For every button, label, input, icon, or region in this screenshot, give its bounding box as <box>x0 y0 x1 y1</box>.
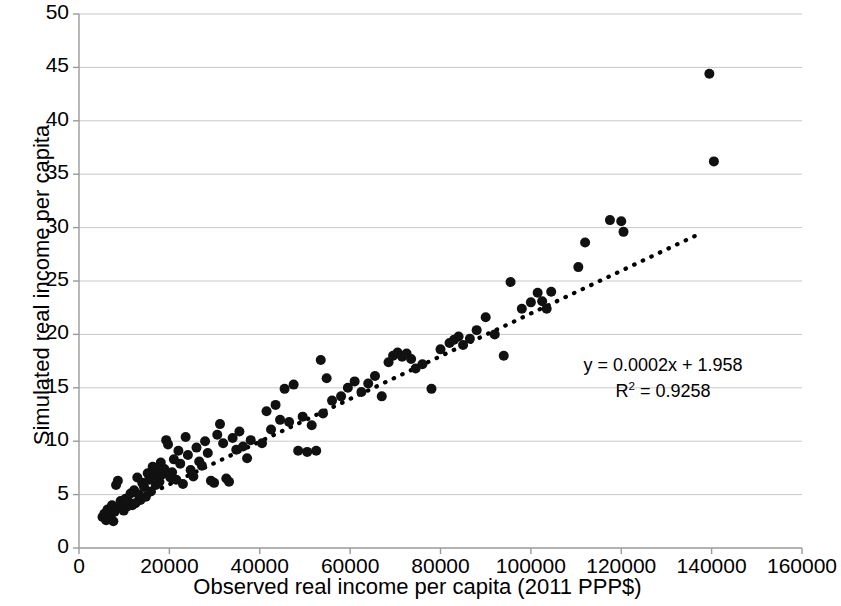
data-points <box>97 69 718 526</box>
scatter-point <box>175 459 185 469</box>
scatter-point <box>318 408 328 418</box>
x-axis-title: Observed real income per capita (2011 PP… <box>0 574 835 600</box>
scatter-point <box>490 329 500 339</box>
scatter-point <box>546 287 556 297</box>
scatter-point <box>377 391 387 401</box>
scatter-point <box>506 277 516 287</box>
scatter-point <box>181 432 191 442</box>
scatter-point <box>533 288 543 298</box>
scatter-point <box>454 332 464 342</box>
scatter-point <box>370 371 380 381</box>
scatter-point <box>481 312 491 322</box>
scatter-point <box>178 479 188 489</box>
scatter-point <box>580 238 590 248</box>
scatter-point <box>289 380 299 390</box>
scatter-point <box>499 351 509 361</box>
scatter-point <box>113 476 123 486</box>
scatter-point <box>293 446 303 456</box>
scatter-point <box>436 344 446 354</box>
scatter-point <box>203 448 213 458</box>
scatter-point <box>619 227 629 237</box>
scatter-point <box>709 156 719 166</box>
scatter-point <box>302 447 312 457</box>
scatter-point <box>262 406 272 416</box>
scatter-point <box>246 435 256 445</box>
scatter-point <box>275 415 285 425</box>
r-squared-label: R2 = 0.9258 <box>548 378 778 404</box>
scatter-point <box>417 359 427 369</box>
scatter-point <box>363 379 373 389</box>
scatter-point <box>209 478 219 488</box>
gridlines <box>79 14 802 495</box>
scatter-point <box>336 391 346 401</box>
scatter-point <box>271 400 281 410</box>
scatter-point <box>234 427 244 437</box>
scatter-point <box>316 355 326 365</box>
scatter-point <box>616 216 626 226</box>
scatter-point <box>406 354 416 364</box>
scatter-point <box>472 325 482 335</box>
scatter-point <box>327 396 337 406</box>
scatter-point <box>322 373 332 383</box>
scatter-point <box>350 376 360 386</box>
scatter-point <box>242 453 252 463</box>
scatter-point <box>218 438 228 448</box>
scatter-point <box>191 443 201 453</box>
scatter-point <box>465 334 475 344</box>
scatter-point <box>163 439 173 449</box>
scatter-point <box>266 424 276 434</box>
scatter-point <box>238 442 248 452</box>
scatter-point <box>173 446 183 456</box>
scatter-point <box>426 384 436 394</box>
scatter-point <box>704 69 714 79</box>
scatter-point <box>197 461 207 471</box>
scatter-point <box>517 304 527 314</box>
scatter-point <box>212 430 222 440</box>
scatter-point <box>526 297 536 307</box>
scatter-point <box>183 450 193 460</box>
scatter-point <box>188 471 198 481</box>
scatter-point <box>605 215 615 225</box>
regression-equation: y = 0.0002x + 1.958 <box>548 352 778 378</box>
r-squared-base: R <box>615 381 628 401</box>
scatter-point <box>307 420 317 430</box>
scatter-point <box>311 446 321 456</box>
scatter-point <box>298 412 308 422</box>
scatter-point <box>224 477 234 487</box>
scatter-point <box>280 384 290 394</box>
regression-annotation: y = 0.0002x + 1.958 R2 = 0.9258 <box>548 352 778 404</box>
scatter-point <box>356 387 366 397</box>
scatter-point <box>108 516 118 526</box>
y-axis-title: Simulated real income per capita <box>29 5 55 565</box>
scatter-point <box>200 436 210 446</box>
axis-lines <box>73 14 802 554</box>
scatter-point <box>257 438 267 448</box>
scatter-point <box>573 262 583 272</box>
scatter-point <box>215 419 225 429</box>
scatter-point <box>284 417 294 427</box>
scatter-point <box>542 304 552 314</box>
r-squared-value: = 0.9258 <box>635 381 711 401</box>
